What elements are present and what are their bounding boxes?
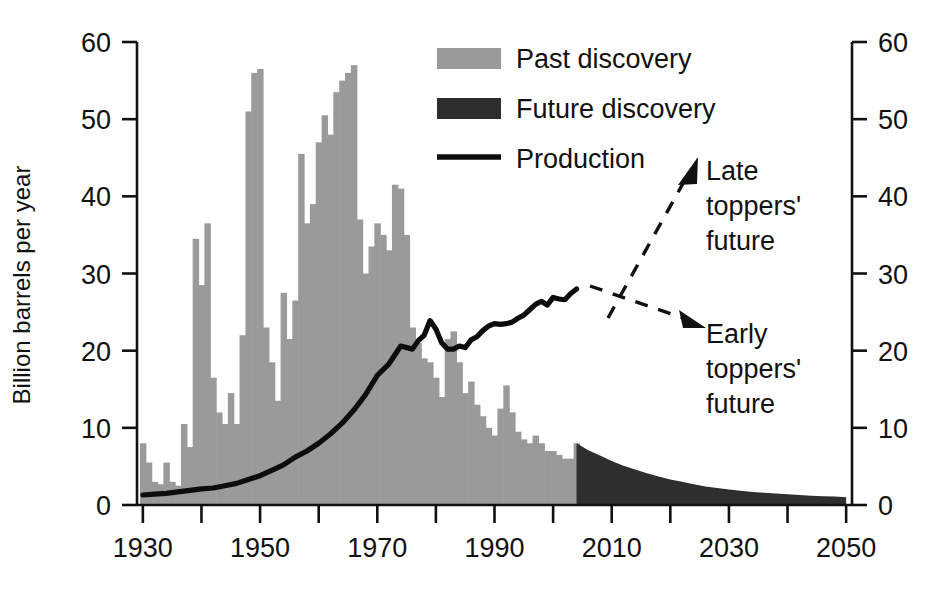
x-tick-label: 1990 [464,533,524,563]
y-tick-label: 40 [81,182,111,212]
past-discovery-bar [199,285,205,505]
past-discovery-bar [427,362,433,505]
y-tick-label: 20 [878,337,908,367]
y-tick-label: 20 [81,337,111,367]
past-discovery-bar [433,378,439,505]
past-discovery-bar [322,115,328,505]
y-tick-label: 30 [878,260,908,290]
legend-swatch-future-discovery [437,98,501,119]
y-tick-label: 30 [81,260,111,290]
past-discovery-bar [257,69,263,505]
past-discovery-bar [310,204,316,505]
past-discovery-bar [550,451,556,505]
y-tick-label: 60 [878,28,908,58]
past-discovery-bar [386,250,392,505]
chart-canvas: 0102030405060 0102030405060 193019501970… [0,0,932,595]
x-tick-label: 1930 [113,533,173,563]
legend-label-past-discovery: Past discovery [516,44,692,74]
past-discovery-bar [415,343,421,505]
late-toppers-label-line-2: toppers' [706,191,801,221]
past-discovery-bar [556,455,562,505]
past-discovery-bar [304,223,310,505]
past-discovery-bar [497,409,503,505]
y-axis-title: Billion barrels per year [8,166,35,405]
y-tick-label: 40 [878,182,908,212]
past-discovery-bar [533,436,539,505]
past-discovery-bar [462,393,468,505]
early-toppers-label-line-1: Early [706,319,768,349]
y-tick-label: 0 [96,491,111,521]
past-discovery-bar [269,362,275,505]
past-discovery-bar [327,135,333,505]
past-discovery-bar [333,92,339,505]
past-discovery-bar [544,451,550,505]
x-tick-label: 1970 [347,533,407,563]
late-toppers-label-line-1: Late [706,156,759,186]
past-discovery-bar [292,301,298,505]
past-discovery-bar [193,239,199,505]
past-discovery-bar [468,382,474,505]
y-tick-label: 0 [878,491,893,521]
past-discovery-bar [339,81,345,505]
past-discovery-bar [456,362,462,505]
past-discovery-bar [369,246,375,505]
y-tick-label: 10 [81,414,111,444]
past-discovery-bar [187,447,193,505]
y-tick-label: 50 [81,105,111,135]
legend-swatch-past-discovery [437,48,501,69]
past-discovery-bar [351,65,357,505]
past-discovery-bar [286,339,292,505]
y-tick-label: 50 [878,105,908,135]
past-discovery-bar [492,436,498,505]
past-discovery-bar [281,293,287,505]
early-toppers-label-line-3: future [706,389,775,419]
past-discovery-bar [509,412,515,505]
past-discovery-bar [316,142,322,505]
past-discovery-bar [474,405,480,505]
early-toppers-label-line-2: toppers' [706,354,801,384]
past-discovery-bar [451,331,457,505]
past-discovery-bar [251,73,257,505]
past-discovery-bar [275,401,281,505]
past-discovery-bar [503,385,509,505]
past-discovery-bar [234,424,240,505]
y-tick-label: 60 [81,28,111,58]
past-discovery-bar [439,397,445,505]
past-discovery-bar [345,73,351,505]
past-discovery-bar [515,432,521,505]
past-discovery-bar [527,443,533,505]
past-discovery-bar [263,328,269,505]
discovery-production-chart: 0102030405060 0102030405060 193019501970… [0,0,932,595]
x-tick-label: 1950 [230,533,290,563]
past-discovery-bar [568,459,574,505]
past-discovery-bar [374,223,380,505]
legend-label-future-discovery: Future discovery [516,94,716,124]
past-discovery-bar [404,235,410,505]
past-discovery-bar [562,459,568,505]
past-discovery-bar [163,463,169,505]
past-discovery-bar [175,486,181,505]
past-discovery-bar [538,443,544,505]
past-discovery-bar [521,439,527,505]
x-tick-label: 2030 [699,533,759,563]
past-discovery-bar [486,428,492,505]
late-toppers-label-line-3: future [706,226,775,256]
past-discovery-bar [245,111,251,505]
x-tick-label: 2050 [816,533,876,563]
past-discovery-bar [410,328,416,505]
past-discovery-bar [216,412,222,505]
past-discovery-bar [222,424,228,505]
past-discovery-bar [357,219,363,505]
past-discovery-bar [204,223,210,505]
past-discovery-bar [228,393,234,505]
past-discovery-bar [392,185,398,505]
x-tick-label: 2010 [582,533,642,563]
legend-label-production: Production [516,144,645,174]
past-discovery-bar [146,463,152,505]
y-tick-label: 10 [878,414,908,444]
past-discovery-bar [480,416,486,505]
past-discovery-bar [421,358,427,505]
past-discovery-bar [445,339,451,505]
